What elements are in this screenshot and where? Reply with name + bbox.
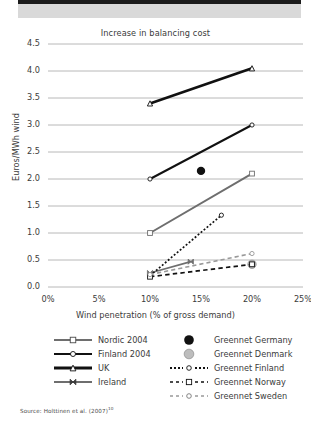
series-line [150, 262, 191, 273]
legend-marker-icon [168, 347, 210, 361]
data-point-marker [148, 177, 152, 181]
legend-marker-icon [52, 361, 94, 375]
data-point-marker [250, 262, 255, 267]
data-point-marker [70, 351, 75, 356]
series-nordic-2004 [148, 171, 255, 235]
legend-label: UK [94, 363, 109, 373]
data-point-marker [148, 231, 153, 236]
data-point-marker [219, 213, 223, 217]
data-point-marker [184, 335, 194, 345]
data-point-marker [70, 337, 76, 343]
data-point-marker [250, 251, 254, 255]
series-greennet-sweden [148, 251, 254, 276]
legend-item[interactable]: Greennet Germany [168, 333, 311, 347]
series-line [150, 264, 252, 276]
source-note: Source: Holttinen et al. (2007)10 [20, 406, 114, 414]
data-point-marker [197, 167, 205, 175]
legend-item[interactable]: UK [52, 361, 162, 375]
data-point-marker [250, 171, 255, 176]
legend-item[interactable]: Finland 2004 [52, 347, 162, 361]
legend-item[interactable]: Nordic 2004 [52, 333, 162, 347]
legend-item[interactable]: Greennet Denmark [168, 347, 311, 361]
legend-marker-icon [168, 375, 210, 389]
legend-marker-icon [52, 347, 94, 361]
source-text: Source: Holttinen et al. (2007) [20, 408, 108, 414]
series-greennet-germany [197, 167, 205, 175]
legend-marker-icon [52, 333, 94, 347]
legend-item[interactable]: Greennet Finland [168, 361, 311, 375]
legend-column-left: Nordic 2004Finland 2004UKIreland [52, 333, 162, 389]
legend-item[interactable]: Greennet Sweden [168, 389, 311, 403]
legend-marker-icon [168, 361, 210, 375]
chart-area: Increase in balancing cost Euros/MWh win… [0, 22, 311, 327]
legend-label: Greennet Finland [210, 363, 284, 373]
legend-item[interactable]: Greennet Norway [168, 375, 311, 389]
figure-container: Increase in balancing cost Euros/MWh win… [0, 0, 311, 429]
data-point-marker [148, 272, 152, 276]
legend-label: Greennet Sweden [210, 391, 287, 401]
series-greennet-finland [148, 213, 224, 278]
legend-label: Greennet Germany [210, 335, 292, 345]
data-point-marker [184, 349, 194, 359]
legend-marker-icon [52, 375, 94, 389]
legend-label: Greennet Norway [210, 377, 286, 387]
legend-label: Greennet Denmark [210, 349, 292, 359]
legend-label: Nordic 2004 [94, 335, 148, 345]
plot-canvas [0, 22, 311, 327]
header-gray-band [18, 4, 301, 18]
data-point-marker [250, 123, 254, 127]
source-superscript: 10 [108, 406, 114, 411]
data-point-marker [187, 366, 192, 371]
series-uk [147, 66, 254, 106]
data-point-marker [70, 379, 76, 385]
chart-legend: Nordic 2004Finland 2004UKIreland Greenne… [0, 333, 311, 405]
legend-label: Ireland [94, 377, 126, 387]
legend-marker-icon [168, 333, 210, 347]
data-point-marker [186, 379, 191, 384]
legend-label: Finland 2004 [94, 349, 151, 359]
legend-item[interactable]: Ireland [52, 375, 162, 389]
legend-column-right: Greennet GermanyGreennet DenmarkGreennet… [168, 333, 311, 403]
data-point-marker [187, 394, 192, 399]
legend-marker-icon [168, 389, 210, 403]
series-line [150, 174, 252, 233]
series-line [150, 254, 252, 275]
